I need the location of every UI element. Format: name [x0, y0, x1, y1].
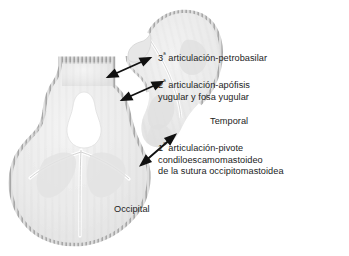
- label-articulation-2-line2: yugular y fosa yugular: [158, 92, 250, 104]
- occipital-bone: [10, 55, 150, 250]
- label-articulation-2: 2ª articulación-apófisis yugular y fosa …: [158, 80, 250, 103]
- occipital-basilar-part: [62, 59, 112, 87]
- label-articulation-3: 3ª articulación-petrobasilar: [158, 53, 267, 65]
- label-articulation-1-text1: articulación-pivote: [166, 143, 244, 153]
- label-articulation-1-line3: de la sutura occipitomastoidea: [158, 166, 284, 178]
- label-bone-occipital: Occipital: [114, 204, 150, 216]
- label-articulation-1-line2: condiloescamomastoideo: [158, 155, 284, 167]
- label-articulation-1-line1: 1ª articulación-pivote: [158, 143, 284, 155]
- label-bone-temporal: Temporal: [210, 116, 248, 128]
- anatomy-figure: 3ª articulación-petrobasilar 2ª articula…: [0, 0, 349, 256]
- label-articulation-2-line1: 2ª articulación-apófisis: [158, 80, 250, 92]
- label-articulation-1: 1ª articulación-pivote condiloescamomast…: [158, 143, 284, 178]
- label-articulation-2-text1: articulación-apófisis: [166, 80, 250, 90]
- anatomical-illustration: [0, 0, 349, 256]
- label-articulation-3-text: articulación-petrobasilar: [166, 53, 267, 63]
